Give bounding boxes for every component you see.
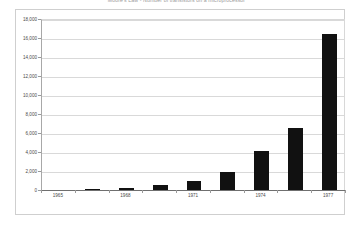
x-axis-tick-mark xyxy=(176,190,177,193)
y-axis-tick-label: 12,000 xyxy=(23,74,37,79)
bar xyxy=(254,151,269,191)
x-axis-line xyxy=(41,190,346,191)
bar xyxy=(220,172,235,191)
chart-title: Moore's Law - Number of transistors on a… xyxy=(0,0,353,3)
x-axis-tick-label: 1977 xyxy=(314,193,342,199)
x-axis-tick-label: 1971 xyxy=(179,193,207,199)
y-axis-tick-label: 0 xyxy=(34,188,37,193)
bars-layer xyxy=(42,20,344,191)
y-axis-tick-label: 14,000 xyxy=(23,55,37,60)
x-axis-tick-mark xyxy=(41,190,42,193)
x-axis-tick-mark xyxy=(210,190,211,193)
x-axis-tick-label: 1974 xyxy=(247,193,275,199)
x-axis-tick-mark xyxy=(277,190,278,193)
bar xyxy=(288,128,303,191)
y-axis-tick-label: 4,000 xyxy=(26,150,38,155)
bar xyxy=(322,34,337,191)
x-axis-tick-label: 1968 xyxy=(111,193,139,199)
x-axis-tick-mark xyxy=(244,190,245,193)
y-axis-tick-label: 10,000 xyxy=(23,93,37,98)
y-axis-tick-label: 6,000 xyxy=(26,131,38,136)
x-axis-tick-mark xyxy=(311,190,312,193)
x-axis-tick-mark xyxy=(75,190,76,193)
y-axis-tick-label: 18,000 xyxy=(23,17,37,22)
chart-container: Moore's Law - Number of transistors on a… xyxy=(0,0,353,229)
y-axis-tick-label: 8,000 xyxy=(26,112,38,117)
y-axis-tick-labels: 02,0004,0006,0008,00010,00012,00014,0001… xyxy=(0,0,41,200)
x-axis-tick-mark xyxy=(109,190,110,193)
y-axis-tick-label: 2,000 xyxy=(26,169,38,174)
x-axis-tick-labels: 19651968197119741977 xyxy=(0,193,353,207)
plot-area xyxy=(41,19,345,191)
y-axis-tick-label: 16,000 xyxy=(23,36,37,41)
x-axis-tick-label: 1965 xyxy=(44,193,72,199)
x-axis-tick-mark xyxy=(345,190,346,193)
x-axis-tick-mark xyxy=(142,190,143,193)
